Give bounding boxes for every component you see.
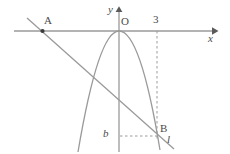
origin-label: O [121,16,129,27]
geometry-figure: A O 3 y x B l b [0,0,230,154]
line-l-label: l [167,134,170,145]
b-value-label: b [103,128,109,139]
point-A-marker [40,29,44,33]
line-l [27,18,174,149]
y-axis-arrowhead-icon [116,6,123,12]
y-axis-label: y [108,4,113,15]
figure-canvas [0,0,230,154]
x-tick-3-label: 3 [153,14,159,25]
point-A-label: A [44,15,52,26]
y-axis [116,6,123,152]
x-axis-label: x [208,33,213,44]
